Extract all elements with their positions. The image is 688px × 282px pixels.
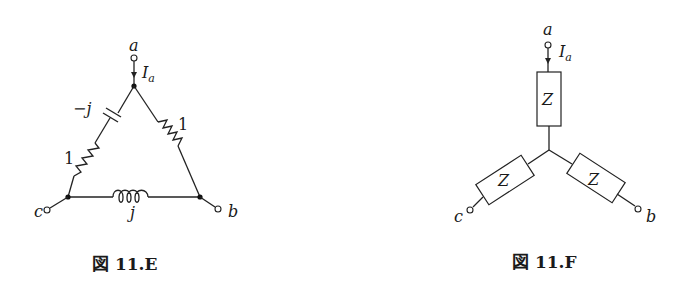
inductor-label: j <box>127 203 135 222</box>
terminal-a-label: a <box>129 36 139 55</box>
caption-prefix: 図 <box>512 252 529 272</box>
terminal-c <box>44 207 50 213</box>
terminal-a <box>131 55 137 61</box>
star-circuit: a Ia Z Z c Z b <box>454 20 656 226</box>
resistor-left-icon <box>74 143 99 176</box>
impedance-c-label: Z <box>497 171 510 190</box>
terminal-c <box>467 207 473 213</box>
capacitor-icon <box>103 108 121 122</box>
terminal-b <box>215 206 221 212</box>
terminal-b-label: b <box>646 207 656 226</box>
capacitor-label: −j <box>73 99 91 118</box>
resistor-right-label: 1 <box>178 115 188 134</box>
terminal-c-label: c <box>34 202 43 221</box>
current-arrow-icon <box>131 72 137 78</box>
terminal-a-label: a <box>543 20 553 39</box>
terminal-b-label: b <box>228 202 238 221</box>
delta-circuit: a Ia −j 1 1 j c b <box>34 36 238 222</box>
current-label: Ia <box>141 63 155 85</box>
impedance-a-label: Z <box>541 90 554 109</box>
terminal-b <box>635 206 641 212</box>
impedance-b-label: Z <box>587 170 600 189</box>
terminal-a <box>545 42 551 48</box>
caption-figure-11e: 図 11.E <box>92 250 157 275</box>
caption-number: 11.E <box>115 254 158 274</box>
caption-number: 11.F <box>535 252 577 272</box>
caption-prefix: 図 <box>92 254 109 274</box>
caption-figure-11f: 図 11.F <box>512 248 577 273</box>
current-label: Ia <box>558 42 572 64</box>
resistor-left-label: 1 <box>64 149 74 168</box>
circuit-diagrams: a Ia −j 1 1 j c b <box>0 0 688 282</box>
inductor-icon <box>113 190 148 202</box>
terminal-c-label: c <box>454 207 463 226</box>
current-arrow-icon <box>545 58 551 64</box>
